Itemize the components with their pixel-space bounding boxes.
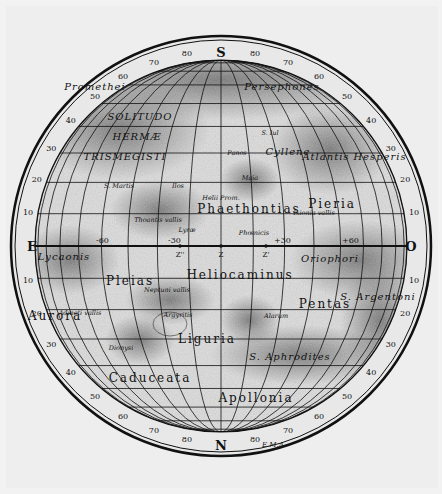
longitude-mark: -30 — [168, 236, 181, 245]
region-label: Argyritis — [163, 311, 194, 319]
region-label: Ixionia vallis — [292, 209, 335, 217]
region-label: SOLITUDO — [108, 111, 173, 122]
latitude-tick-label: 40 — [66, 368, 76, 377]
latitude-tick-label: 20 — [400, 175, 410, 184]
latitude-tick-label: 40 — [366, 368, 376, 377]
region-label: Aurora — [27, 309, 82, 323]
mars-globe-map: 8080707060605050404030302020101010102020… — [0, 0, 442, 494]
longitude-mark: +60 — [342, 236, 359, 245]
cardinal-north: N — [215, 438, 227, 453]
latitude-tick-label: 40 — [66, 116, 76, 125]
region-label: Lycaonis — [37, 251, 90, 262]
meridian-point-dot — [178, 244, 182, 248]
meridian-point-label: Z' — [263, 251, 270, 259]
region-label: Lyræ — [177, 226, 195, 234]
region-label: Phœnicis — [238, 229, 270, 237]
region-label: Maia — [241, 174, 259, 182]
region-label: Dionysi — [108, 344, 133, 352]
latitude-tick-label: 80 — [250, 49, 260, 58]
latitude-tick-label: 80 — [250, 435, 260, 444]
region-label: Alarum — [263, 312, 288, 320]
region-label: Heliocaminus — [186, 268, 293, 282]
region-label: Ilos — [171, 182, 185, 190]
region-label: Thoantis vallis — [134, 216, 182, 224]
region-label: Persephones — [243, 81, 319, 92]
meridian-point-dot — [219, 244, 223, 248]
latitude-tick-label: 30 — [386, 340, 396, 349]
longitude-mark: -60 — [96, 236, 109, 245]
region-label: HERMÆ — [112, 131, 162, 142]
latitude-tick-label: 10 — [23, 276, 33, 285]
region-label: Phaethontias — [197, 202, 301, 216]
latitude-tick-label: 70 — [149, 426, 159, 435]
cardinal-west: O — [405, 239, 416, 254]
region-label: Neptuni vallis — [143, 286, 191, 294]
latitude-tick-label: 60 — [314, 72, 324, 81]
longitude-mark: +30 — [274, 236, 291, 245]
cardinal-south: S — [216, 45, 225, 60]
region-label: Oriophori — [301, 253, 359, 264]
latitude-tick-label: 50 — [342, 392, 352, 401]
latitude-tick-label: 60 — [118, 72, 128, 81]
latitude-tick-label: 10 — [409, 276, 419, 285]
meridian-point-label: Z'' — [176, 251, 185, 259]
latitude-tick-label: 70 — [149, 58, 159, 67]
region-label: Atlantis — [301, 151, 349, 162]
latitude-tick-label: 40 — [366, 116, 376, 125]
region-label: Apollonia — [217, 391, 293, 405]
region-label: S. Argentoni — [340, 291, 415, 302]
latitude-tick-label: 10 — [409, 208, 419, 217]
region-label: Panos — [226, 149, 247, 157]
map-frame: 8080707060605050404030302020101010102020… — [6, 6, 438, 488]
region-label: Liguria — [178, 332, 236, 346]
signature: E.M.A. — [261, 441, 286, 449]
latitude-tick-label: 70 — [283, 58, 293, 67]
latitude-tick-label: 50 — [90, 392, 100, 401]
meridian-point-label: Z — [219, 251, 224, 259]
latitude-tick-label: 50 — [90, 92, 100, 101]
region-label: Promethei — [63, 81, 126, 92]
latitude-tick-label: 60 — [314, 412, 324, 421]
latitude-tick-label: 50 — [342, 92, 352, 101]
region-label: Helii Prom. — [201, 194, 239, 202]
latitude-tick-label: 80 — [182, 49, 192, 58]
latitude-tick-label: 30 — [46, 340, 56, 349]
region-label: Caduceata — [109, 371, 192, 385]
latitude-tick-label: 60 — [118, 412, 128, 421]
latitude-tick-label: 80 — [182, 435, 192, 444]
latitude-tick-label: 20 — [400, 309, 410, 318]
region-label: S. Aphrodites — [249, 351, 330, 362]
latitude-tick-label: 20 — [32, 175, 42, 184]
region-label: S. Iul — [261, 129, 278, 137]
latitude-tick-label: 10 — [23, 208, 33, 217]
region-label: Hesperis — [352, 151, 406, 162]
region-label: TRISMEGISTI — [84, 151, 167, 162]
latitude-tick-label: 30 — [46, 144, 56, 153]
latitude-tick-label: 70 — [283, 426, 293, 435]
region-label: S. Martis — [104, 182, 135, 190]
meridian-point-dot — [264, 244, 268, 248]
cardinal-east: E — [27, 239, 37, 254]
